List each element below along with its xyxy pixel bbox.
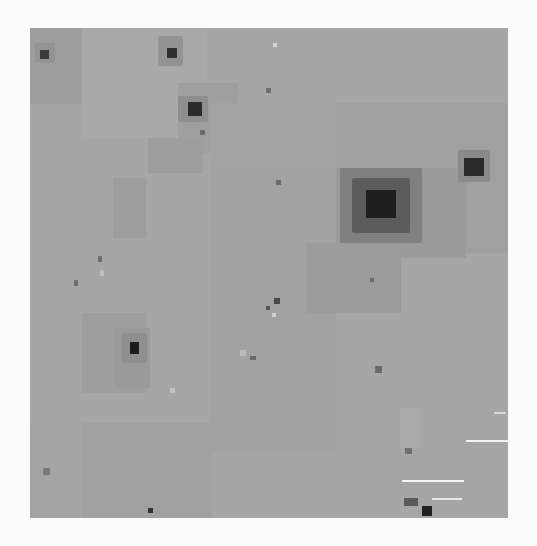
dot-5 xyxy=(200,130,205,135)
white-streak xyxy=(432,498,462,500)
dot-12 xyxy=(266,88,271,93)
dot-7 xyxy=(74,280,78,286)
bright-pixel xyxy=(272,313,276,317)
white-streak xyxy=(494,412,506,414)
dot-10 xyxy=(375,366,382,373)
background-patch xyxy=(210,103,336,173)
white-streak xyxy=(402,480,464,482)
star-top-left xyxy=(40,50,49,59)
star-right xyxy=(464,158,484,176)
star-left-mid xyxy=(130,342,139,354)
bright-pixel xyxy=(273,43,277,47)
dot-2 xyxy=(274,298,280,304)
astronomical-image xyxy=(30,28,508,518)
bright-pixel xyxy=(100,270,104,276)
dot-3 xyxy=(266,306,270,310)
background-patch xyxy=(148,138,203,173)
dot-4 xyxy=(370,278,374,282)
background-patch xyxy=(30,423,82,518)
white-streak xyxy=(466,440,508,442)
background-patch xyxy=(30,28,82,104)
bright-star xyxy=(366,190,396,218)
dot-6 xyxy=(98,256,102,262)
background-patch xyxy=(306,243,401,313)
background-patch xyxy=(400,408,420,448)
dot-9 xyxy=(148,508,153,513)
background-patch xyxy=(82,423,212,518)
dot-1 xyxy=(276,180,281,185)
dot-11 xyxy=(405,448,412,454)
star-top xyxy=(167,48,177,58)
bright-pixel xyxy=(170,388,175,393)
star-bottom-right xyxy=(422,506,432,516)
dot-8 xyxy=(43,468,50,475)
dot-13 xyxy=(250,356,256,360)
bright-pixel xyxy=(240,350,246,356)
star-upper-mid xyxy=(188,102,202,116)
dot-14 xyxy=(404,498,418,506)
background-patch xyxy=(113,178,146,238)
